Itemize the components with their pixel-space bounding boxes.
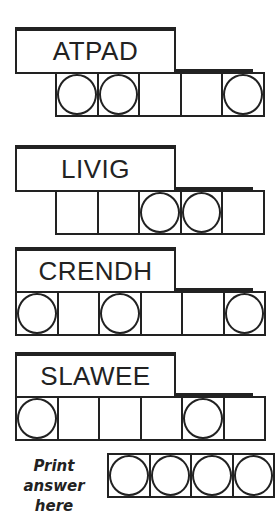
letter-cells [15, 291, 266, 336]
letter-cell[interactable] [57, 291, 101, 336]
letter-cell-circled[interactable] [180, 190, 224, 235]
letter-cell[interactable] [98, 396, 142, 441]
answer-cell[interactable] [107, 453, 151, 498]
scrambled-word: SLAWEE [15, 352, 176, 399]
letter-cell-circled[interactable] [97, 72, 141, 117]
letter-cells [55, 72, 265, 117]
letter-cell[interactable] [138, 72, 182, 117]
answer-label-line2: here [4, 496, 104, 515]
letter-cell-circled[interactable] [221, 72, 265, 117]
letter-cell[interactable] [140, 291, 184, 336]
letter-cell[interactable] [181, 291, 225, 336]
scrambled-word: LIVIG [15, 145, 176, 192]
letter-cells [55, 190, 265, 235]
answer-label-line1: Print answer [4, 456, 104, 496]
answer-label: Print answer here [4, 456, 104, 515]
letter-cell-circled[interactable] [138, 190, 182, 235]
letter-cell[interactable] [180, 72, 224, 117]
scrambled-word: CRENDH [15, 247, 176, 294]
letter-cells [15, 396, 266, 441]
letter-cell-circled[interactable] [15, 396, 59, 441]
letter-cell-circled[interactable] [181, 396, 225, 441]
letter-cell[interactable] [223, 396, 267, 441]
letter-cell[interactable] [55, 190, 99, 235]
letter-cell[interactable] [221, 190, 265, 235]
answer-cell[interactable] [232, 453, 276, 498]
letter-cell-circled[interactable] [55, 72, 99, 117]
answer-cells [107, 453, 275, 498]
answer-cell[interactable] [190, 453, 234, 498]
letter-cell-circled[interactable] [15, 291, 59, 336]
letter-cell[interactable] [57, 396, 101, 441]
letter-cell[interactable] [97, 190, 141, 235]
letter-cell[interactable] [140, 396, 184, 441]
letter-cell-circled[interactable] [98, 291, 142, 336]
answer-cell[interactable] [149, 453, 193, 498]
scrambled-word: ATPAD [15, 27, 176, 74]
letter-cell-circled[interactable] [223, 291, 267, 336]
